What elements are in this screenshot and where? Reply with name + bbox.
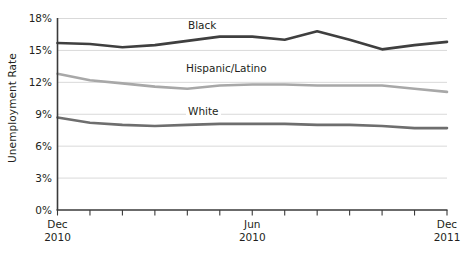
series-line-black: [58, 31, 448, 49]
series-line-hispanic-latino: [58, 74, 448, 92]
series-annotation-white: White: [186, 105, 221, 117]
series-line-white: [58, 117, 448, 128]
x-axis-tick-label: Dec2010: [28, 218, 88, 244]
x-axis-tick-label: Dec2011: [417, 218, 465, 244]
series-annotation-black: Black: [186, 19, 218, 31]
series-annotation-hispanic-latino: Hispanic/Latino: [184, 62, 269, 74]
x-axis-tick-label: Jun2010: [222, 218, 282, 244]
